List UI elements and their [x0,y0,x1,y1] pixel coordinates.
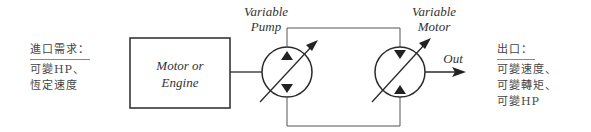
input-line-1: 可變HP、 [30,62,90,78]
output-line-2: 可變轉矩、 [497,78,557,94]
motor-label-line-2: Motor [398,19,470,34]
output-heading: 出口： [497,42,535,60]
output-line-3: 可變HP [497,94,557,110]
input-line-2: 恆定速度 [30,78,90,94]
variable-pump-label: Variable Pump [230,4,302,34]
motor-arrowhead-icon [419,38,431,49]
motor-label-line-1: Variable [398,4,470,19]
motor-flow-triangle-up-icon [394,85,406,94]
input-requirements-block: 進口需求： 可變HP、 恆定速度 [30,42,90,94]
output-line-1: 可變速度、 [497,62,557,78]
pump-flow-triangle-up-icon [281,51,293,60]
hydraulic-line-lower [287,97,400,126]
out-label: Out [438,51,468,66]
pump-label-line-1: Variable [230,4,302,19]
pump-arrowhead-icon [306,40,318,51]
motor-flow-triangle-down-icon [394,50,406,59]
output-block: 出口： 可變速度、 可變轉矩、 可變HP [497,42,557,110]
motor-engine-label: Motor or Engine [130,57,230,91]
pump-label-line-2: Pump [230,19,302,34]
variable-motor-label: Variable Motor [398,4,470,34]
input-heading: 進口需求： [30,42,90,60]
pump-flow-triangle-down-icon [281,84,293,93]
motor-engine-line-2: Engine [130,74,230,91]
hydraulic-line-upper [287,28,400,47]
motor-engine-line-1: Motor or [130,57,230,74]
